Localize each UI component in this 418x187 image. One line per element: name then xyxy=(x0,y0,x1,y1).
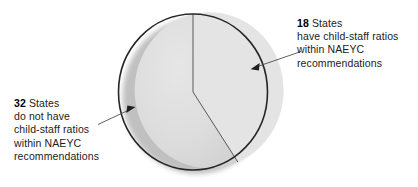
annotation-18-states-line1: 18 States xyxy=(297,17,398,30)
annotation-32-states-line2: do not have xyxy=(14,110,99,123)
annotation-18-states-line2: have child-staff ratios xyxy=(297,30,398,43)
annotation-18-states-line4: recommendations xyxy=(297,57,398,70)
pie-chart-figure: 18 States have child-staff ratios within… xyxy=(0,0,418,187)
annotation-32-states-line3: child-staff ratios xyxy=(14,123,99,136)
annotation-32-states-line4: within NAEYC xyxy=(14,137,99,150)
annotation-32-states-line5: recommendations xyxy=(14,150,99,163)
annotation-18-states-suffix: States xyxy=(309,17,342,29)
annotation-18-states: 18 States have child-staff ratios within… xyxy=(297,17,398,70)
annotation-32-states-line1: 32 States xyxy=(14,97,99,110)
annotation-32-states: 32 States do not have child-staff ratios… xyxy=(14,97,99,163)
annotation-18-states-number: 18 xyxy=(297,17,309,29)
annotation-32-states-number: 32 xyxy=(14,97,26,109)
annotation-32-states-suffix: States xyxy=(26,97,59,109)
annotation-18-states-line3: within NAEYC xyxy=(297,43,398,56)
